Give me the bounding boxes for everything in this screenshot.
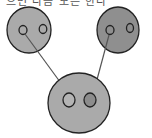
- right-parent-cell: [97, 7, 139, 53]
- cell-inheritance-diagram: [0, 0, 152, 138]
- left-parent-cell: [7, 7, 51, 53]
- child-cell: [48, 73, 110, 133]
